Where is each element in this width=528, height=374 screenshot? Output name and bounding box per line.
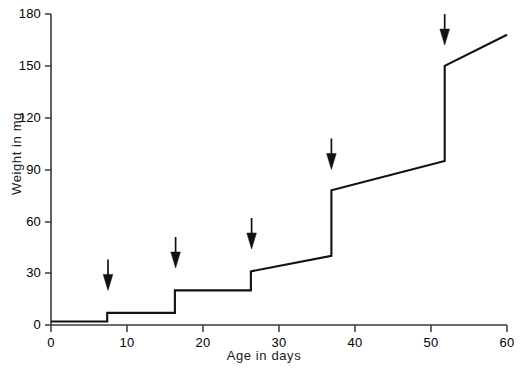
down-arrow-icon-2 [171,237,181,268]
y-tick-label-150: 150 [0,58,41,73]
data-polyline [51,35,507,322]
x-axis-ticks [51,325,507,332]
down-arrow-icon-3 [247,218,257,249]
weight-vs-age-chart: 180 150 120 90 60 30 0 0 10 20 30 40 50 … [0,0,528,374]
weight-growth-curve [51,35,507,322]
down-arrow-icon-1 [103,259,113,290]
down-arrow-icon-5 [440,14,450,45]
y-axis-title: Weight in mg [9,94,24,214]
x-axis-title: Age in days [0,348,528,363]
down-arrow-icon-4 [327,139,337,170]
y-tick-label-60: 60 [0,214,41,229]
y-tick-label-180: 180 [0,6,41,21]
y-axis-ticks [45,14,51,325]
axes [45,14,507,332]
moult-arrows [103,14,449,290]
y-tick-label-30: 30 [0,265,41,280]
y-tick-label-0: 0 [0,317,41,332]
plot-area [0,0,528,374]
